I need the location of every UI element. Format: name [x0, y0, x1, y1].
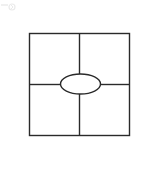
- center-ellipse: [61, 74, 101, 94]
- four-square-diagram: [0, 0, 144, 194]
